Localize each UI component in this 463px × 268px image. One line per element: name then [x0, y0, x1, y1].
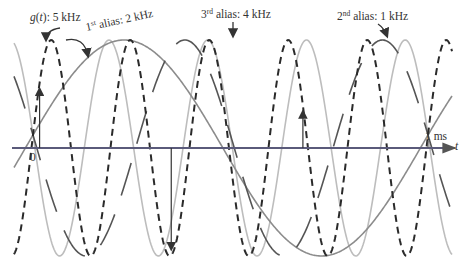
- origin-label: 0: [30, 152, 36, 164]
- label-alias2: 2nd alias: 1 kHz: [337, 11, 408, 23]
- alias2-text: alias: 1 kHz: [350, 10, 408, 22]
- g-freq: : 5 kHz: [47, 11, 81, 23]
- alias2-sup: nd: [343, 9, 351, 18]
- label-alias3: 3rd alias: 4 kHz: [201, 9, 271, 21]
- label-g-5khz: g(t): 5 kHz: [30, 12, 81, 24]
- alias3-num: 3: [201, 8, 207, 20]
- aliasing-figure: [0, 0, 463, 268]
- alias2-label-arrow: [378, 24, 387, 36]
- g-label-arrow: [46, 28, 60, 40]
- alias3-text: alias: 4 kHz: [213, 8, 271, 20]
- end-time-label: 1 ms: [425, 131, 447, 143]
- alias1-label-arrow: [66, 39, 88, 56]
- sample-points: [40, 89, 303, 249]
- alias2-num: 2: [337, 10, 343, 22]
- alias3-sup: rd: [207, 7, 213, 16]
- t-axis-label: t: [455, 141, 458, 153]
